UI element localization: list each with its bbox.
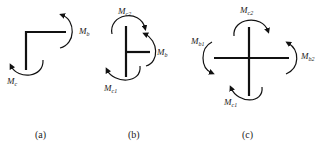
- moment-arc-mc2: [112, 16, 145, 34]
- moment-label-mb1-c: Mb1: [191, 37, 205, 47]
- moment-label-mc2-b: Mc2: [118, 7, 131, 17]
- joint-moment-diagram: [0, 0, 320, 150]
- moment-label-mc1-b: Mc1: [104, 84, 117, 94]
- moment-label-mb2-c: Mb2: [301, 52, 315, 62]
- moment-label-mb-a: Mb: [79, 27, 90, 37]
- caption-c: (c): [242, 129, 253, 140]
- panel-b-joint: [107, 16, 156, 80]
- caption-a: (a): [35, 129, 46, 140]
- panel-a-joint: [11, 15, 72, 75]
- moment-label-mb-b: Mb: [157, 48, 168, 58]
- moment-label-mc-a: Mc: [7, 77, 17, 87]
- panel-c-joint: [203, 20, 297, 100]
- moment-arc-mb: [145, 34, 156, 66]
- moment-arc-mc1: [107, 66, 140, 80]
- moment-arc-mc2: [234, 20, 268, 36]
- caption-b: (b): [128, 129, 140, 140]
- moment-label-mc2-c: Mc2: [240, 6, 253, 16]
- moment-label-mc1-c: Mc1: [224, 98, 237, 108]
